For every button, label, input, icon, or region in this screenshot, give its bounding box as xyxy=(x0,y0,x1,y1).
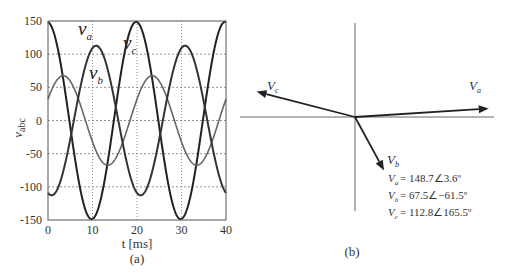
y-tick: 50 xyxy=(30,80,42,94)
phasor-V_c xyxy=(266,94,355,117)
label-va: va xyxy=(78,18,92,42)
svg-text:= 112.8∠165.5º: = 112.8∠165.5º xyxy=(400,206,472,218)
equation-vb: Vb = 67.5∠−61.5º xyxy=(388,189,468,204)
svg-text:Va: Va xyxy=(388,172,399,187)
phasor-label-vc: Vc xyxy=(267,78,279,95)
svg-text:= 67.5∠−61.5º: = 67.5∠−61.5º xyxy=(400,189,468,201)
x-tick: 0 xyxy=(45,223,51,237)
x-tick: 20 xyxy=(131,223,143,237)
y-tick: -50 xyxy=(26,147,42,161)
y-axis-label: vabc xyxy=(10,118,27,138)
svg-text:Vb: Vb xyxy=(388,189,399,204)
x-tick-labels: 010203040 xyxy=(45,223,232,237)
label-vb: vb xyxy=(89,62,103,86)
x-tick: 10 xyxy=(87,223,99,237)
svg-text:Vc: Vc xyxy=(388,206,399,221)
phasor-arrows xyxy=(257,90,489,170)
phasor-V_b xyxy=(355,117,379,162)
y-tick: 150 xyxy=(24,14,42,28)
phasor-label-vb: Vb xyxy=(387,152,399,169)
x-tick: 30 xyxy=(176,223,188,237)
phasor-label-va: Va xyxy=(469,78,481,95)
arrowhead-icon xyxy=(376,160,384,171)
label-vc: vc xyxy=(123,32,136,56)
equation-va: Va = 148.7∠3.6º xyxy=(388,172,461,187)
panel-a-label: (a) xyxy=(130,251,144,266)
y-tick: 100 xyxy=(24,47,42,61)
equation-vc: Vc = 112.8∠165.5º xyxy=(388,206,472,221)
phasor-diagram: Va Vc Vb Va = 148.7∠3.6º Vb = 67.5∠−61.5… xyxy=(240,23,494,259)
figure: 150100500-50-100-150 010203040 t [ms] (a… xyxy=(0,0,508,274)
waveform-plot: 150100500-50-100-150 010203040 t [ms] (a… xyxy=(10,14,232,266)
arrowhead-icon xyxy=(257,90,268,98)
y-tick: -150 xyxy=(20,213,42,227)
x-tick: 40 xyxy=(220,223,232,237)
panel-b-label: (b) xyxy=(344,244,359,259)
x-axis-label: t [ms] xyxy=(122,236,153,251)
y-tick: -100 xyxy=(20,180,42,194)
svg-text:= 148.7∠3.6º: = 148.7∠3.6º xyxy=(400,172,461,184)
arrowhead-icon xyxy=(479,105,489,113)
y-tick: 0 xyxy=(36,114,42,128)
phasor-V_a xyxy=(355,109,479,117)
